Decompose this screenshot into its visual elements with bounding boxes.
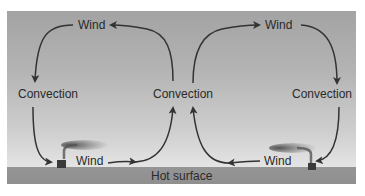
label-wind-top-right: Wind	[265, 19, 292, 31]
arrow-left-down-bottom	[33, 107, 51, 162]
label-convection-center: Convection	[153, 88, 213, 100]
arrow-bottom-right-left	[229, 161, 260, 163]
arrow-bottom-up-center	[135, 108, 173, 162]
arrow-top-left-down	[35, 25, 73, 81]
label-wind-bottom-left: Wind	[76, 155, 103, 167]
label-wind-top-left: Wind	[78, 19, 105, 31]
label-convection-right: Convection	[292, 88, 352, 100]
arrow-bottom-up-center-right	[193, 108, 229, 163]
convection-diagram: Wind Wind Convection Convection Convecti…	[7, 11, 356, 184]
arrow-center-right-up	[193, 25, 259, 83]
arrow-bottom-left-right	[108, 161, 135, 163]
label-convection-left: Convection	[18, 88, 78, 100]
arrow-right-down-bottom	[317, 107, 339, 161]
label-wind-bottom-right: Wind	[264, 155, 291, 167]
arrow-center-left-up	[111, 25, 173, 81]
label-hot-surface: Hot surface	[151, 170, 212, 182]
arrow-top-right-down	[301, 25, 337, 83]
